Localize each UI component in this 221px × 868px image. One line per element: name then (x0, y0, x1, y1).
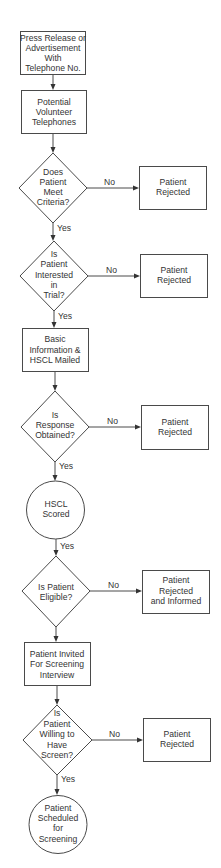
edge-label-yes: Yes (59, 461, 73, 471)
node-patient-invited: Patient Invited For Screening Interview (25, 643, 91, 686)
node-label: Trial? (43, 290, 64, 300)
node-label: Patient (44, 719, 71, 729)
node-label: Patient (164, 729, 191, 739)
node-label: Rejected (156, 187, 190, 197)
node-label: Is (51, 249, 58, 259)
node-hscl-scored: HSCL Scored (27, 481, 85, 539)
node-label: With (44, 53, 61, 63)
edge-label-no: No (106, 265, 117, 275)
arrow-n2-d1 (51, 134, 56, 153)
node-label: Scored (42, 509, 69, 519)
reject-box-1: Patient Rejected (140, 167, 207, 210)
arrow-d1-yes: Yes (51, 223, 72, 241)
node-label: Interested (35, 270, 73, 280)
reject-box-3: Patient Rejected (142, 406, 209, 450)
node-label: in (51, 280, 58, 290)
node-label: Patient Invited (30, 649, 85, 659)
node-label: Potential (37, 97, 71, 107)
node-label: Patient (163, 575, 190, 585)
node-label: Interview (40, 670, 75, 680)
node-label: Willing to (40, 729, 75, 739)
edge-label-yes: Yes (61, 774, 75, 784)
arrow-d4-no: No (90, 580, 142, 594)
node-label: Rejected (159, 586, 193, 596)
decision-patient-eligible: Is Patient Eligible? (22, 556, 90, 627)
node-label: Have (47, 740, 67, 750)
node-label: for (53, 823, 63, 833)
arrow-n3-d3 (53, 372, 58, 391)
node-label: Rejected (160, 739, 194, 749)
node-label: Obtained? (35, 430, 75, 440)
arrow-d3-yes: Yes (53, 461, 74, 481)
node-label: Telephones (32, 117, 76, 127)
node-label: Eligible? (40, 592, 73, 602)
decision-willing-to-screen: Is Patient Willing to Have Screen? (23, 705, 92, 775)
arrow-c1-d4: Yes (54, 539, 75, 556)
edge-label-no: No (108, 580, 119, 590)
flowchart: Press Release or Advertisement With Tele… (0, 0, 221, 868)
edge-label-yes: Yes (57, 223, 71, 233)
node-label: Patient (160, 177, 187, 187)
node-label: Response (36, 420, 75, 430)
node-label: Patient (41, 259, 68, 269)
node-basic-information: Basic Information & HSCL Mailed (23, 329, 89, 372)
arrow-d5-no: No (92, 729, 143, 743)
node-label: Screen? (41, 750, 73, 760)
node-label: Basic (44, 334, 66, 344)
decision-interested-in-trial: Is Patient Interested in Trial? (20, 241, 88, 311)
decision-response-obtained: Is Response Obtained? (21, 391, 89, 462)
edge-label-no: No (107, 416, 118, 426)
node-label: Patient (40, 177, 67, 187)
arrow-n1-n2 (51, 75, 56, 90)
decision-meet-criteria: Does Patient Meet Criteria? (19, 153, 87, 223)
node-label: Meet (43, 187, 63, 197)
node-label: Patient (161, 265, 188, 275)
node-label: Advertisement (26, 43, 82, 53)
node-label: Rejected (158, 427, 192, 437)
edge-label-yes: Yes (58, 311, 72, 321)
edge-label-no: No (104, 177, 115, 187)
node-label: Scheduled (38, 813, 79, 823)
arrow-d3-no: No (89, 416, 141, 430)
edge-label-yes: Yes (60, 541, 74, 551)
node-label: and Informed (151, 596, 202, 606)
node-label: Patient (162, 417, 189, 427)
node-patient-scheduled: Patient Scheduled for Screening (29, 796, 87, 854)
edge-label-no: No (109, 729, 120, 739)
node-label: Does (43, 167, 63, 177)
node-press-release: Press Release or Advertisement With Tele… (20, 32, 86, 75)
node-label: Patient (45, 803, 72, 813)
node-label: HSCL (45, 499, 68, 509)
arrow-d1-no: No (87, 177, 139, 191)
arrow-d5-yes: Yes (55, 774, 76, 795)
node-label: Press Release or (20, 33, 86, 43)
node-label: Information & (29, 345, 80, 355)
node-label: For Screening (30, 659, 84, 669)
arrow-n4-d5 (55, 686, 60, 705)
node-label: Criteria? (37, 197, 70, 207)
arrow-d2-no: No (88, 265, 140, 279)
reject-box-5: Patient Rejected (144, 719, 211, 762)
arrow-d2-yes: Yes (52, 311, 73, 328)
arrow-d4-n4 (54, 627, 59, 642)
node-label: Telephone No. (25, 63, 80, 73)
node-label: Is (54, 708, 61, 718)
node-potential-volunteer: Potential Volunteer Telephones (22, 91, 87, 134)
node-label: Is (52, 410, 59, 420)
node-label: Screening (39, 834, 78, 844)
node-label: Rejected (157, 275, 191, 285)
node-label: Is Patient (38, 582, 74, 592)
reject-box-4: Patient Rejected and Informed (143, 571, 210, 614)
node-label: Volunteer (36, 107, 72, 117)
node-label: HSCL Mailed (30, 355, 81, 365)
reject-box-2: Patient Rejected (141, 255, 208, 298)
